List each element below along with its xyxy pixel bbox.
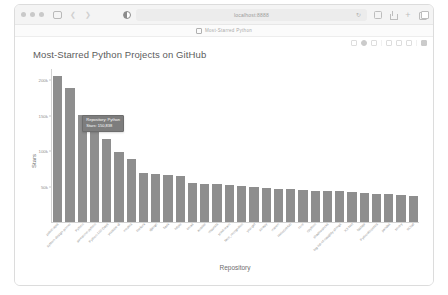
- x-axis-tick-label: models: [124, 223, 134, 233]
- y-axis-tick-mark: [49, 79, 51, 80]
- bar-slot[interactable]: [138, 69, 149, 222]
- x-tick-slot: HelloGitHub: [285, 223, 296, 261]
- browser-window: ❮ ❯ localhost:8888 ↻ + Most-Starred Pyth…: [14, 4, 434, 286]
- bar[interactable]: [262, 188, 271, 222]
- bar[interactable]: [114, 152, 123, 222]
- bar[interactable]: [360, 193, 369, 222]
- chart-figure: Most-Starred Python Projects on GitHub S…: [15, 37, 433, 285]
- bar-slot[interactable]: [395, 69, 406, 222]
- bookmark-label: Most-Starred Python: [205, 28, 252, 33]
- bookmark-bar[interactable]: Most-Starred Python: [15, 25, 433, 37]
- bar[interactable]: [163, 175, 172, 222]
- bar-slot[interactable]: [261, 69, 272, 222]
- bar[interactable]: [212, 184, 221, 222]
- navigation-arrows[interactable]: ❮ ❯: [70, 11, 91, 18]
- bar-slot[interactable]: [383, 69, 394, 222]
- y-axis-tick-label: 100k: [38, 149, 48, 154]
- forward-button[interactable]: ❯: [85, 11, 91, 18]
- download-icon[interactable]: [374, 11, 382, 19]
- bar[interactable]: [396, 195, 405, 222]
- reader-mode-icon[interactable]: [123, 11, 131, 19]
- x-axis-tick-label: keras: [187, 223, 195, 231]
- bar-slot[interactable]: [285, 69, 296, 222]
- new-tab-icon[interactable]: +: [404, 11, 412, 19]
- bar-slot[interactable]: [64, 69, 75, 222]
- back-button[interactable]: ❮: [70, 11, 76, 18]
- bar[interactable]: [151, 174, 160, 222]
- bar[interactable]: [286, 189, 295, 222]
- bar-slot[interactable]: [236, 69, 247, 222]
- bar[interactable]: [249, 187, 258, 222]
- bar[interactable]: [409, 196, 418, 222]
- bar-slot[interactable]: [359, 69, 370, 222]
- x-axis-tick-label: ItChat: [407, 223, 416, 232]
- bar-slot[interactable]: [273, 69, 284, 222]
- bar-slot[interactable]: [297, 69, 308, 222]
- bar-slot[interactable]: [126, 69, 137, 222]
- x-tick-slot: flask: [162, 223, 173, 261]
- bar-slot[interactable]: [199, 69, 210, 222]
- sidebar-icon[interactable]: [53, 11, 62, 19]
- bar-slot[interactable]: [175, 69, 186, 222]
- maximize-window-button[interactable]: [39, 12, 44, 17]
- share-icon[interactable]: [389, 11, 397, 19]
- bar[interactable]: [372, 194, 381, 222]
- traffic-light-buttons[interactable]: [21, 12, 44, 17]
- bar[interactable]: [90, 130, 99, 222]
- bar-slot[interactable]: [224, 69, 235, 222]
- y-axis-tick-mark: [49, 151, 51, 152]
- bar[interactable]: [335, 191, 344, 222]
- bar-slot[interactable]: [77, 69, 88, 222]
- bar[interactable]: [188, 183, 197, 222]
- x-axis-tick-label: pandas: [381, 223, 391, 233]
- bar-slot[interactable]: [52, 69, 63, 222]
- bar-slot[interactable]: [101, 69, 112, 222]
- bar-slot[interactable]: [89, 69, 100, 222]
- bar[interactable]: [139, 173, 148, 222]
- bar[interactable]: [274, 189, 283, 222]
- bar-slot[interactable]: [248, 69, 259, 222]
- bar[interactable]: [347, 192, 356, 222]
- bar-slot[interactable]: [371, 69, 382, 222]
- bar-slot[interactable]: [150, 69, 161, 222]
- bar[interactable]: [200, 184, 209, 222]
- bar[interactable]: [127, 159, 136, 222]
- bar[interactable]: [102, 139, 111, 222]
- bar[interactable]: [384, 194, 393, 222]
- bar[interactable]: [65, 88, 74, 222]
- x-axis-tick-label: django: [149, 223, 159, 233]
- bar-slot[interactable]: [334, 69, 345, 222]
- page-favicon: [196, 28, 202, 34]
- chart-title: Most-Starred Python Projects on GitHub: [33, 49, 206, 60]
- bar-series: [52, 69, 419, 222]
- bar[interactable]: [53, 76, 62, 222]
- bar[interactable]: [225, 185, 234, 222]
- y-axis-tick-label: 150k: [38, 113, 48, 118]
- bar[interactable]: [298, 190, 307, 222]
- y-axis-label: Stars: [31, 154, 37, 168]
- bar[interactable]: [311, 191, 320, 222]
- url-text: localhost:8888: [234, 12, 269, 18]
- y-axis-tick-mark: [49, 115, 51, 116]
- bar-slot[interactable]: [162, 69, 173, 222]
- browser-toolbar-icons[interactable]: +: [374, 11, 427, 19]
- reload-icon[interactable]: ↻: [356, 12, 361, 18]
- bar-slot[interactable]: [187, 69, 198, 222]
- bar-slot[interactable]: [113, 69, 124, 222]
- bar-slot[interactable]: [346, 69, 357, 222]
- minimize-window-button[interactable]: [30, 12, 35, 17]
- x-tick-slot: pandas: [383, 223, 394, 261]
- tab-overview-icon[interactable]: [419, 11, 427, 19]
- bar-slot[interactable]: [310, 69, 321, 222]
- close-window-button[interactable]: [21, 12, 26, 17]
- bar[interactable]: [323, 191, 332, 222]
- bar[interactable]: [176, 176, 185, 222]
- bar-slot[interactable]: [408, 69, 419, 222]
- page-content: Most-Starred Python Projects on GitHub S…: [15, 37, 433, 285]
- bar[interactable]: [237, 186, 246, 222]
- bar-slot[interactable]: [211, 69, 222, 222]
- x-axis-tick-label: thefuck: [136, 223, 146, 233]
- bar-slot[interactable]: [322, 69, 333, 222]
- address-bar[interactable]: localhost:8888 ↻: [136, 9, 367, 21]
- plot-area: 200k150k100k50k Repository: PythonStars:…: [51, 69, 419, 223]
